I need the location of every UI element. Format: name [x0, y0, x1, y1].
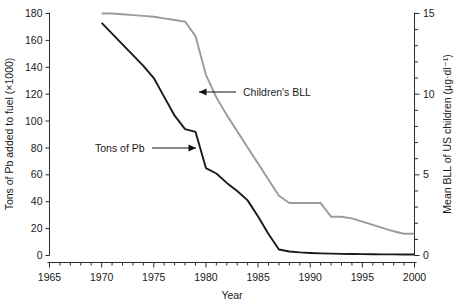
x-axis-tick-label: 1980: [194, 271, 218, 283]
annotation-arrowhead: [189, 144, 197, 151]
left-axis-tick-label: 80: [31, 142, 43, 154]
left-axis-tick-label: 40: [31, 195, 43, 207]
x-axis-tick-label: 1965: [38, 271, 62, 283]
annotation-arrowhead: [199, 88, 207, 95]
x-axis-tick-label: 2000: [403, 271, 427, 283]
annotations-group: Tons of PbChildren's BLL: [95, 86, 311, 154]
right-axis-tick-label: 5: [423, 168, 429, 180]
x-axis-tick-label: 1985: [246, 271, 270, 283]
left-axis-tick-label: 20: [31, 222, 43, 234]
x-axis-tick-label: 1975: [142, 271, 166, 283]
axes-group: 0204060801001201401601800510151965197019…: [25, 7, 435, 282]
lead-exposure-line-chart: 0204060801001201401601800510151965197019…: [0, 0, 461, 308]
left-axis-title: Tons of Pb added to fuel (×1000): [3, 58, 15, 211]
right-axis-tick-label: 15: [423, 7, 435, 19]
series-line-childrens-bll: [102, 14, 415, 234]
annotation-tons-of-pb: Tons of Pb: [95, 142, 196, 154]
left-axis-tick-label: 140: [25, 61, 43, 73]
right-axis-title: Mean BLL of US children (µg·dl⁻¹): [441, 54, 453, 213]
series-line-tons-of-pb: [102, 23, 415, 255]
left-axis-tick-label: 0: [37, 249, 43, 261]
left-axis-tick-label: 120: [25, 88, 43, 100]
left-axis-tick-label: 100: [25, 115, 43, 127]
left-axis-tick-label: 180: [25, 7, 43, 19]
right-axis-tick-label: 0: [423, 249, 429, 261]
x-axis-tick-label: 1970: [90, 271, 114, 283]
left-axis-tick-label: 160: [25, 34, 43, 46]
right-axis-tick-label: 10: [423, 88, 435, 100]
x-axis-tick-label: 1995: [351, 271, 375, 283]
x-axis-tick-label: 1990: [299, 271, 323, 283]
x-axis-title: Year: [221, 289, 243, 301]
annotation-text: Children's BLL: [243, 86, 311, 98]
left-axis-tick-label: 60: [31, 168, 43, 180]
chart-container: 0204060801001201401601800510151965197019…: [0, 0, 461, 308]
series-group: [102, 14, 415, 255]
annotation-text: Tons of Pb: [95, 142, 145, 154]
